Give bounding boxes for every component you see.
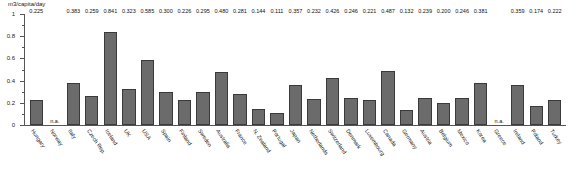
bar-value-label: 0.300 — [159, 8, 173, 14]
x-category-label: Belgium — [438, 128, 454, 148]
bar-item[interactable]: 0.381 — [471, 14, 490, 125]
bar-rect[interactable]: 0.239 — [418, 98, 431, 125]
bar-value-label: 0.585 — [140, 8, 154, 14]
bar-item[interactable]: 0.295 — [194, 14, 213, 125]
bar-item[interactable]: 0.357 — [286, 14, 305, 125]
bar-rect[interactable]: 0.174 — [530, 106, 543, 125]
bar-item[interactable]: n.a. — [490, 14, 509, 125]
bar-item[interactable]: 0.281 — [231, 14, 250, 125]
x-category-slot: Turkey — [545, 128, 564, 174]
x-category-label: Japan — [289, 128, 302, 144]
x-category-label: Mexico — [456, 128, 471, 146]
bar-item[interactable]: 0.174 — [527, 14, 546, 125]
y-tick: 0.8 — [20, 36, 24, 37]
bar-rect[interactable]: 0.226 — [178, 100, 191, 125]
bar-rect[interactable]: 0.144 — [252, 109, 265, 125]
bar-rect[interactable]: 0.841 — [104, 32, 117, 125]
x-category-label: France — [234, 128, 249, 146]
bar-item[interactable]: 0.300 — [157, 14, 176, 125]
y-tick-minor — [22, 25, 24, 26]
x-category-label: Hungary — [30, 128, 47, 149]
bar-rect[interactable]: 0.281 — [233, 94, 246, 125]
bar-item[interactable]: 0.359 — [508, 14, 527, 125]
y-tick-label: 0 — [12, 122, 15, 128]
bar-rect[interactable]: 0.381 — [474, 83, 487, 125]
bar-value-label: 0.246 — [344, 8, 358, 14]
x-category-slot: Belgium — [434, 128, 453, 174]
x-category-label: Poland — [530, 128, 545, 146]
bar-value-label: 0.144 — [252, 8, 266, 14]
y-tick: 1 — [20, 14, 24, 15]
bar-rect[interactable]: 0.221 — [363, 100, 376, 125]
bar-rect[interactable]: 0.246 — [455, 98, 468, 125]
bar-rect[interactable]: 0.383 — [67, 83, 80, 126]
bar-item[interactable]: 0.111 — [268, 14, 287, 125]
bar-rect[interactable]: 0.585 — [141, 60, 154, 125]
bar-value-label: 0.426 — [326, 8, 340, 14]
bar-rect[interactable]: 0.259 — [85, 96, 98, 125]
bar-rect[interactable]: 0.222 — [548, 100, 561, 125]
bar-value-label: 0.323 — [122, 8, 136, 14]
bar-item[interactable]: 0.487 — [379, 14, 398, 125]
bar-rect[interactable]: 0.357 — [289, 85, 302, 125]
bar-rect[interactable]: 0.111 — [270, 113, 283, 125]
bar-item[interactable]: 0.426 — [323, 14, 342, 125]
bar-na-label: n.a. — [495, 118, 504, 124]
bar-item[interactable]: 0.841 — [101, 14, 120, 125]
x-category-label: Spain — [160, 128, 173, 143]
bar-item[interactable]: 0.585 — [138, 14, 157, 125]
x-category-label: Ireland — [512, 128, 526, 145]
x-category-slot: Korea — [471, 128, 490, 174]
bar-value-label: 0.221 — [363, 8, 377, 14]
plot-area: 00.20.40.60.81 0.225n.a.0.3830.2590.8410… — [24, 14, 566, 126]
bar-rect[interactable]: 0.232 — [307, 99, 320, 125]
bar-rect[interactable]: 0.480 — [215, 72, 228, 125]
bar-item[interactable]: 0.222 — [545, 14, 564, 125]
y-tick-label: 0.4 — [7, 78, 15, 84]
bar-item[interactable]: 0.221 — [360, 14, 379, 125]
bar-rect[interactable]: 0.300 — [159, 92, 172, 125]
bar-item[interactable]: 0.144 — [249, 14, 268, 125]
y-tick-label: 0.2 — [7, 100, 15, 106]
bar-series: 0.225n.a.0.3830.2590.8410.3230.5850.3000… — [25, 14, 566, 125]
x-category-label: Korea — [475, 128, 488, 144]
bar-rect[interactable]: 0.246 — [344, 98, 357, 125]
bar-item[interactable]: 0.246 — [342, 14, 361, 125]
x-category-slot: Switzerland — [323, 128, 342, 174]
bar-value-label: 0.225 — [29, 8, 43, 14]
bar-rect[interactable]: 0.132 — [400, 110, 413, 125]
bar-item[interactable]: 0.480 — [212, 14, 231, 125]
x-category-slot: Hungary — [27, 128, 46, 174]
bar-item[interactable]: 0.383 — [64, 14, 83, 125]
bar-rect[interactable]: 0.359 — [511, 85, 524, 125]
bar-rect[interactable]: 0.295 — [196, 92, 209, 125]
bar-item[interactable]: 0.259 — [83, 14, 102, 125]
bar-item[interactable]: 0.132 — [397, 14, 416, 125]
bar-rect[interactable]: 0.426 — [326, 78, 339, 125]
bar-item[interactable]: 0.323 — [120, 14, 139, 125]
bar-rect[interactable]: 0.225 — [30, 100, 43, 125]
x-category-label: Norway — [49, 128, 64, 147]
x-category-slot: Japan — [286, 128, 305, 174]
x-category-slot: Greece — [490, 128, 509, 174]
bar-item[interactable]: n.a. — [46, 14, 65, 125]
y-tick: 0.4 — [20, 81, 24, 82]
bar-rect[interactable]: 0.323 — [122, 89, 135, 125]
bar-item[interactable]: 0.232 — [305, 14, 324, 125]
bar-item[interactable]: 0.246 — [453, 14, 472, 125]
bar-item[interactable]: 0.226 — [175, 14, 194, 125]
bar-item[interactable]: 0.200 — [434, 14, 453, 125]
bar-value-label: 0.295 — [196, 8, 210, 14]
x-category-slot: Poland — [527, 128, 546, 174]
y-tick-label: 1 — [12, 11, 15, 17]
bar-value-label: 0.226 — [177, 8, 191, 14]
bar-chart: m3/capita/day 00.20.40.60.81 0.225n.a.0.… — [0, 0, 578, 174]
bar-item[interactable]: 0.225 — [27, 14, 46, 125]
x-axis-category-labels: HungaryNorwayItalyCzech Rep.IcelandUKUSA… — [25, 128, 566, 174]
bar-item[interactable]: 0.239 — [416, 14, 435, 125]
y-tick-label: 0.8 — [7, 33, 15, 39]
x-category-label: Sweden — [197, 128, 213, 148]
bar-rect[interactable]: 0.487 — [381, 71, 394, 125]
x-category-label: Iceland — [104, 128, 119, 146]
bar-rect[interactable]: 0.200 — [437, 103, 450, 125]
